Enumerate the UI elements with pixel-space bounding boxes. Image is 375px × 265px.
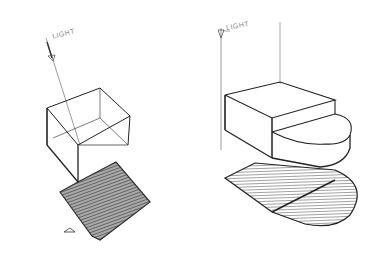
sketch-canvas bbox=[0, 0, 375, 265]
right-box bbox=[225, 82, 351, 167]
right-shadow bbox=[225, 163, 357, 226]
small-triangle-mark bbox=[64, 228, 75, 232]
left-shadow bbox=[60, 162, 150, 240]
